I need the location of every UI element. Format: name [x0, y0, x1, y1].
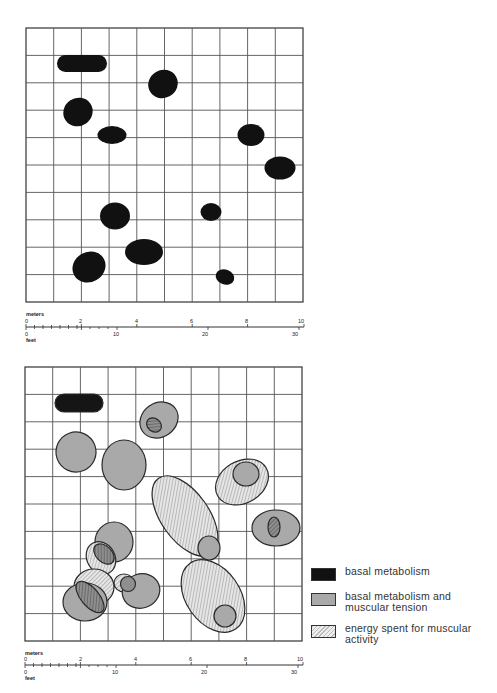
svg-text:2: 2 — [79, 318, 82, 324]
basal-shape — [143, 64, 183, 103]
basal-shape — [57, 55, 107, 72]
svg-text:20: 20 — [201, 669, 207, 675]
svg-text:0: 0 — [24, 656, 27, 662]
legend: basal metabolism basal metabolism and mu… — [311, 566, 497, 652]
basal-shape — [67, 246, 111, 289]
top-basal-shapes — [57, 55, 296, 288]
svg-text:4: 4 — [134, 656, 137, 662]
svg-text:feet: feet — [25, 675, 35, 681]
basal-shape — [58, 92, 99, 132]
basal-swatch-icon — [311, 568, 336, 581]
tension-shape — [214, 605, 236, 627]
basal-shape — [214, 267, 237, 288]
activity-shape — [168, 548, 258, 645]
activity-swatch-icon — [311, 625, 336, 638]
svg-text:6: 6 — [189, 656, 192, 662]
svg-text:8: 8 — [244, 656, 247, 662]
bottom-floor-plan — [25, 367, 302, 644]
svg-text:8: 8 — [245, 318, 248, 324]
tension-swatch-icon — [311, 593, 336, 606]
basal-shape — [238, 124, 265, 146]
basal-inner-shape — [121, 577, 136, 592]
legend-item-activity: energy spent for muscular activity — [311, 623, 497, 645]
svg-text:20: 20 — [202, 331, 208, 337]
bottom-shapes — [50, 394, 300, 644]
basal-shape — [201, 203, 222, 221]
svg-text:30: 30 — [292, 331, 298, 337]
svg-text:10: 10 — [297, 656, 303, 662]
tension-shape — [102, 440, 146, 490]
legend-label: energy spent for muscular activity — [345, 623, 471, 645]
svg-text:feet: feet — [26, 337, 36, 343]
svg-text:10: 10 — [112, 669, 118, 675]
svg-text:4: 4 — [135, 318, 138, 324]
legend-label: basal metabolism and muscular tension — [345, 591, 451, 613]
tension-shape — [198, 536, 220, 560]
svg-text:10: 10 — [298, 318, 304, 324]
tension-shape — [233, 462, 259, 486]
svg-text:meters: meters — [25, 650, 43, 656]
legend-label: basal metabolism — [345, 566, 430, 577]
svg-text:0: 0 — [25, 318, 28, 324]
legend-item-basal: basal metabolism — [311, 566, 497, 581]
svg-text:10: 10 — [113, 331, 119, 337]
basal-shape — [125, 239, 163, 265]
tension-shape — [50, 426, 101, 477]
svg-text:meters: meters — [26, 311, 44, 317]
basal-shape — [265, 157, 296, 180]
bottom-scale-bar: meters 0 2 4 6 8 10 0 10 — [24, 650, 303, 681]
svg-text:2: 2 — [79, 656, 82, 662]
basal-shape — [98, 126, 127, 144]
basal-shape — [55, 394, 103, 412]
svg-text:30: 30 — [291, 669, 297, 675]
top-scale-bar: meters 0 2 4 6 8 10 0 10 — [25, 311, 304, 343]
svg-text:6: 6 — [190, 318, 193, 324]
top-floor-plan — [26, 28, 303, 302]
basal-inner-shape — [268, 517, 280, 537]
legend-item-tension: basal metabolism and muscular tension — [311, 591, 497, 613]
basal-shape — [100, 203, 130, 230]
